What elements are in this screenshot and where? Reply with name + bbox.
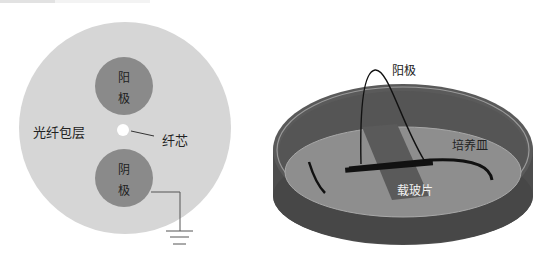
cladding-label: 光纤包层 xyxy=(33,125,85,140)
core-label: 纤芯 xyxy=(162,133,188,148)
ground-icon xyxy=(166,231,193,244)
fiber-cross-section: 阳 极 阴 极 光纤包层 纤芯 xyxy=(19,22,231,244)
anode-label: 阳极 xyxy=(392,64,416,78)
dish-label: 培养皿 xyxy=(452,138,488,153)
slide-label: 载玻片 xyxy=(397,184,433,198)
cathode-electrode xyxy=(95,149,153,207)
petri-dish-setup: 阳极 培养皿 载玻片 xyxy=(273,64,533,245)
figure-canvas: 阳 极 阴 极 光纤包层 纤芯 阳极 xyxy=(0,0,533,263)
anode-label-2: 极 xyxy=(118,92,130,106)
anode-label-1: 阳 xyxy=(118,71,130,85)
cathode-label-2: 极 xyxy=(118,184,130,198)
anode-electrode xyxy=(95,57,153,115)
fiber-core xyxy=(117,124,129,136)
cathode-label-1: 阴 xyxy=(118,163,130,177)
